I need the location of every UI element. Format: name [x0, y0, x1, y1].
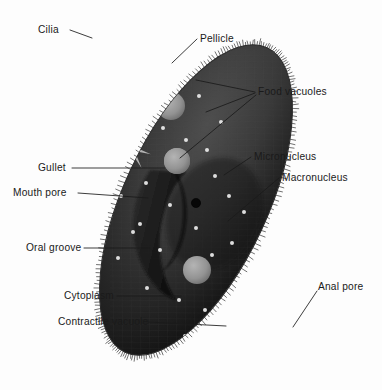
label-text-mouth-pore: Mouth pore	[13, 187, 67, 198]
trichocyst	[144, 181, 148, 185]
trichocyst	[230, 241, 234, 245]
trichocyst	[242, 210, 246, 214]
food-vacuole	[183, 256, 211, 284]
trichocyst	[205, 148, 209, 152]
label-text-macronucleus: Macronucleus	[282, 172, 348, 183]
trichocyst	[184, 138, 188, 142]
label-text-gullet: Gullet	[38, 162, 66, 173]
trichocyst	[194, 226, 198, 230]
label-text-cytoplasm: Cytoplasm	[64, 290, 114, 301]
micronucleus	[164, 148, 190, 174]
trichocyst	[145, 286, 149, 290]
macronucleus	[191, 198, 200, 207]
trichocyst	[210, 253, 214, 257]
label-text-micronucleus: Micronucleus	[254, 151, 316, 162]
trichocyst	[161, 126, 165, 130]
label-text-oral-groove: Oral groove	[26, 242, 82, 253]
label-text-anal-pore: Anal pore	[318, 281, 364, 292]
label-text-food-vacuoles: Food vacuoles	[258, 86, 327, 97]
trichocyst	[168, 203, 172, 207]
paramecium-illustration: CiliaPellicleFood vacuolesMicronucleusMa…	[0, 0, 382, 390]
label-text-contractile-vacuole: Contractile vacuole	[58, 316, 149, 327]
trichocyst	[197, 94, 201, 98]
trichocyst	[227, 194, 231, 198]
trichocyst	[158, 248, 162, 252]
label-text-pellicle: Pellicle	[200, 33, 234, 44]
trichocyst	[203, 308, 207, 312]
trichocyst	[138, 222, 142, 226]
trichocyst	[177, 298, 181, 302]
trichocyst	[213, 174, 217, 178]
trichocyst	[116, 256, 120, 260]
trichocyst	[131, 230, 135, 234]
paramecium-diagram: CiliaPellicleFood vacuolesMicronucleusMa…	[0, 0, 382, 390]
label-text-cilia: Cilia	[38, 24, 59, 35]
